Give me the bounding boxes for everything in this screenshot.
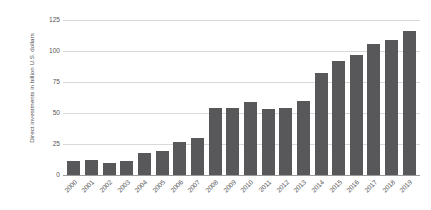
bar-slot bbox=[83, 20, 101, 175]
bar-slot bbox=[259, 20, 277, 175]
bar[interactable] bbox=[315, 73, 328, 175]
bar[interactable] bbox=[350, 55, 363, 175]
bar-slot bbox=[189, 20, 207, 175]
x-axis-tick-label: 2019 bbox=[399, 179, 414, 194]
x-label-slot: 2005 bbox=[153, 177, 171, 210]
x-axis-tick-label: 2015 bbox=[328, 179, 343, 194]
x-axis-tick-label: 2000 bbox=[63, 179, 78, 194]
bar-slot bbox=[118, 20, 136, 175]
bar[interactable] bbox=[191, 138, 204, 175]
x-axis-tick-label: 2010 bbox=[240, 179, 255, 194]
bar-series bbox=[63, 20, 420, 175]
bar[interactable] bbox=[262, 109, 275, 175]
x-label-slot: 2017 bbox=[365, 177, 383, 210]
x-label-slot: 2010 bbox=[242, 177, 260, 210]
x-label-slot: 2004 bbox=[136, 177, 154, 210]
x-axis-tick-label: 2014 bbox=[311, 179, 326, 194]
bar-slot bbox=[295, 20, 313, 175]
x-label-slot: 2007 bbox=[189, 177, 207, 210]
x-axis-tick-label: 2005 bbox=[152, 179, 167, 194]
bar-slot bbox=[312, 20, 330, 175]
bar-slot bbox=[383, 20, 401, 175]
bar[interactable] bbox=[209, 108, 222, 175]
x-label-slot: 2008 bbox=[206, 177, 224, 210]
bar[interactable] bbox=[226, 108, 239, 175]
x-label-slot: 2001 bbox=[83, 177, 101, 210]
y-axis-tick-label: 100 bbox=[36, 48, 60, 55]
x-axis-tick-label: 2013 bbox=[293, 179, 308, 194]
y-axis-tick-labels: 0255075100125 bbox=[36, 0, 60, 210]
x-label-slot: 2006 bbox=[171, 177, 189, 210]
bar[interactable] bbox=[403, 31, 416, 175]
bar-slot bbox=[65, 20, 83, 175]
x-label-slot: 2013 bbox=[295, 177, 313, 210]
bar[interactable] bbox=[367, 44, 380, 175]
x-label-slot: 2012 bbox=[277, 177, 295, 210]
x-axis-tick-label: 2012 bbox=[275, 179, 290, 194]
y-axis-tick-label: 75 bbox=[36, 79, 60, 86]
bar-slot bbox=[365, 20, 383, 175]
x-axis-tick-label: 2017 bbox=[364, 179, 379, 194]
x-axis-tick-label: 2001 bbox=[81, 179, 96, 194]
bar[interactable] bbox=[385, 40, 398, 175]
x-label-slot: 2015 bbox=[330, 177, 348, 210]
bar-slot bbox=[136, 20, 154, 175]
x-axis-tick-labels: 2000200120022003200420052006200720082009… bbox=[63, 177, 420, 210]
x-axis-tick-label: 2009 bbox=[222, 179, 237, 194]
bar-slot bbox=[100, 20, 118, 175]
x-axis-tick-label: 2007 bbox=[187, 179, 202, 194]
bar[interactable] bbox=[67, 161, 80, 175]
x-label-slot: 2000 bbox=[65, 177, 83, 210]
bar[interactable] bbox=[103, 163, 116, 175]
x-axis-tick-label: 2006 bbox=[169, 179, 184, 194]
bar[interactable] bbox=[332, 61, 345, 175]
bar-slot bbox=[348, 20, 366, 175]
x-label-slot: 2016 bbox=[348, 177, 366, 210]
plot-area bbox=[63, 20, 420, 175]
x-label-slot: 2003 bbox=[118, 177, 136, 210]
y-axis-tick-label: 50 bbox=[36, 110, 60, 117]
x-axis-tick-label: 2002 bbox=[99, 179, 114, 194]
bar-chart: Direct investments in billion U.S. dolla… bbox=[0, 0, 431, 210]
x-axis-tick-label: 2003 bbox=[116, 179, 131, 194]
bar[interactable] bbox=[120, 161, 133, 175]
bar-slot bbox=[330, 20, 348, 175]
bar-slot bbox=[153, 20, 171, 175]
x-label-slot: 2009 bbox=[224, 177, 242, 210]
x-axis-tick-label: 2004 bbox=[134, 179, 149, 194]
bar[interactable] bbox=[85, 160, 98, 175]
bar-slot bbox=[171, 20, 189, 175]
bar-slot bbox=[400, 20, 418, 175]
x-label-slot: 2011 bbox=[259, 177, 277, 210]
x-label-slot: 2018 bbox=[383, 177, 401, 210]
x-axis-tick-label: 2018 bbox=[381, 179, 396, 194]
y-axis-tick-label: 0 bbox=[36, 172, 60, 179]
x-label-slot: 2019 bbox=[400, 177, 418, 210]
bar-slot bbox=[242, 20, 260, 175]
x-axis-tick-label: 2011 bbox=[258, 179, 273, 194]
bar[interactable] bbox=[244, 102, 257, 175]
y-axis-tick-label: 125 bbox=[36, 17, 60, 24]
bar-slot bbox=[224, 20, 242, 175]
bar[interactable] bbox=[156, 151, 169, 175]
x-axis-tick-label: 2008 bbox=[205, 179, 220, 194]
y-axis-tick-label: 25 bbox=[36, 141, 60, 148]
bar-slot bbox=[206, 20, 224, 175]
x-axis-tick-label: 2016 bbox=[346, 179, 361, 194]
bar[interactable] bbox=[297, 101, 310, 175]
x-label-slot: 2002 bbox=[100, 177, 118, 210]
bar[interactable] bbox=[138, 153, 151, 175]
bar-slot bbox=[277, 20, 295, 175]
bar[interactable] bbox=[173, 142, 186, 175]
x-label-slot: 2014 bbox=[312, 177, 330, 210]
bar[interactable] bbox=[279, 108, 292, 175]
x-axis-line bbox=[63, 175, 420, 176]
